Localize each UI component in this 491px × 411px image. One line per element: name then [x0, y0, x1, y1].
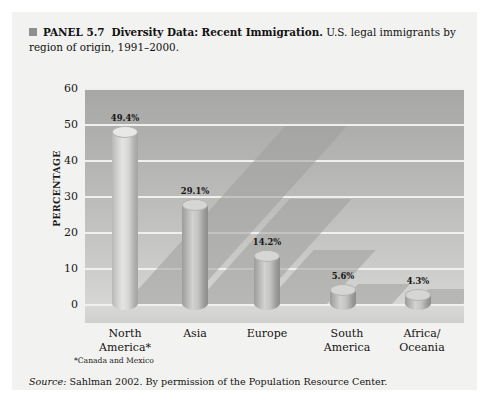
x-label-north-america-line1: North: [99, 327, 151, 341]
value-label-europe: 14.2%: [253, 237, 281, 247]
y-axis-ticks: 60 50 40 30 20 10 0: [34, 75, 78, 295]
panel-caption: PANEL 5.7Diversity Data: Recent Immigrat…: [29, 25, 463, 54]
bar-africa-oceania[interactable]: [405, 289, 431, 310]
y-tick-10: 10: [34, 262, 78, 275]
x-label-asia-line1: Asia: [183, 327, 207, 341]
value-label-north-america: 49.4%: [111, 113, 139, 123]
y-tick-40: 40: [34, 154, 78, 167]
bar-body-europe: [254, 256, 280, 310]
x-label-north-america-line2: America*: [99, 341, 151, 355]
x-label-africa-oceania-line1: Africa/: [399, 327, 444, 341]
chart-footnote: *Canada and Mexico: [74, 356, 154, 365]
gridline-50: [85, 124, 464, 126]
gridline-60: [85, 88, 464, 90]
bar-chart: PERCENTAGE 60 50 40 30 20 10 0: [12, 75, 477, 315]
bar-north-america[interactable]: [112, 126, 138, 310]
y-tick-50: 50: [34, 118, 78, 131]
bar-top-africa-oceania: [405, 289, 431, 301]
y-tick-60: 60: [34, 82, 78, 95]
x-label-asia: Asia: [183, 327, 207, 341]
bar-asia[interactable]: [182, 199, 208, 310]
bar-south-america[interactable]: [330, 284, 356, 310]
y-tick-0: 0: [34, 298, 78, 311]
x-label-north-america: North America*: [99, 327, 151, 355]
bar-top-south-america: [330, 284, 356, 296]
value-label-south-america: 5.6%: [332, 271, 355, 281]
x-label-south-america: South America: [324, 327, 370, 355]
x-label-south-america-line1: South: [324, 327, 370, 341]
chart-source: Source: Sahlman 2002. By permission of t…: [29, 376, 387, 387]
value-label-africa-oceania: 4.3%: [407, 276, 430, 286]
bar-top-north-america: [112, 126, 138, 138]
y-tick-30: 30: [34, 190, 78, 203]
panel-label: PANEL 5.7: [43, 26, 105, 38]
y-tick-20: 20: [34, 226, 78, 239]
x-label-europe: Europe: [247, 327, 288, 341]
x-label-south-america-line2: America: [324, 341, 370, 355]
x-label-africa-oceania: Africa/ Oceania: [399, 327, 444, 355]
bar-top-europe: [254, 250, 280, 262]
value-label-asia: 29.1%: [181, 186, 209, 196]
x-label-africa-oceania-line2: Oceania: [399, 341, 444, 355]
bar-top-asia: [182, 199, 208, 211]
bar-europe[interactable]: [254, 250, 280, 310]
bar-body-asia: [182, 205, 208, 310]
panel-card: PANEL 5.7Diversity Data: Recent Immigrat…: [12, 12, 477, 390]
source-prefix: Source:: [29, 376, 66, 387]
plot-area: 49.4% 29.1% 14.2% 5.6% 4.3%: [85, 88, 464, 323]
source-text: Sahlman 2002. By permission of the Popul…: [66, 376, 387, 387]
panel-title: Diversity Data: Recent Immigration.: [112, 26, 323, 38]
screenshot-root: PANEL 5.7Diversity Data: Recent Immigrat…: [0, 0, 491, 411]
bar-body-north-america: [112, 132, 138, 310]
panel-marker-icon: [29, 28, 37, 36]
x-label-europe-line1: Europe: [247, 327, 288, 341]
